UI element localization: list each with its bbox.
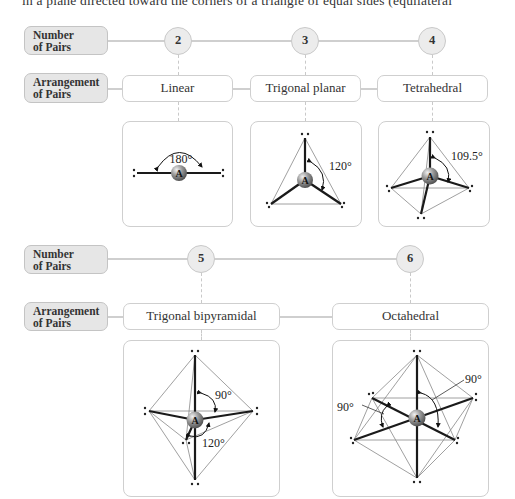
svg-text:109.5°: 109.5° — [451, 149, 483, 163]
octahedral-geometry: A 90° 90° — [337, 350, 482, 483]
svg-text:120°: 120° — [202, 436, 225, 450]
trigonal-planar-geometry: A 120° — [266, 133, 352, 208]
trigonal-bipyramidal-geometry: A 90° 120° — [144, 350, 258, 485]
geometry-drawings: A 180° A 120° A 109.5° — [0, 0, 515, 499]
svg-text:120°: 120° — [329, 159, 352, 173]
svg-text:A: A — [175, 168, 183, 179]
svg-text:A: A — [413, 413, 421, 424]
svg-text:A: A — [301, 175, 309, 186]
svg-text:A: A — [426, 171, 434, 182]
svg-text:A: A — [191, 415, 199, 426]
linear-geometry: A 180° — [133, 152, 224, 181]
svg-text:90°: 90° — [215, 388, 232, 402]
svg-text:180°: 180° — [170, 152, 193, 166]
tetrahedral-geometry: A 109.5° — [386, 131, 483, 219]
svg-text:90°: 90° — [465, 372, 482, 386]
svg-text:90°: 90° — [337, 400, 354, 414]
